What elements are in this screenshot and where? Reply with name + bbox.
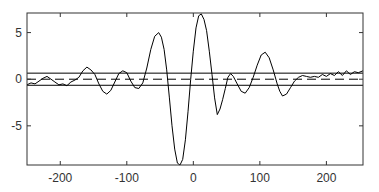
y-tick-label: 0 — [15, 72, 22, 86]
y-tick-label: 5 — [15, 26, 22, 40]
x-tick-label: 200 — [316, 171, 336, 185]
plot-area — [27, 14, 363, 165]
line-chart: -200-1000100200 50-5 — [0, 0, 379, 192]
y-tick-label: -5 — [11, 119, 22, 133]
signal-series-line — [27, 14, 363, 165]
x-axis: -200-1000100200 — [48, 13, 336, 185]
x-tick-label: -100 — [115, 171, 139, 185]
x-tick-label: -200 — [48, 171, 72, 185]
x-tick-label: 100 — [250, 171, 270, 185]
x-tick-label: 0 — [190, 171, 197, 185]
